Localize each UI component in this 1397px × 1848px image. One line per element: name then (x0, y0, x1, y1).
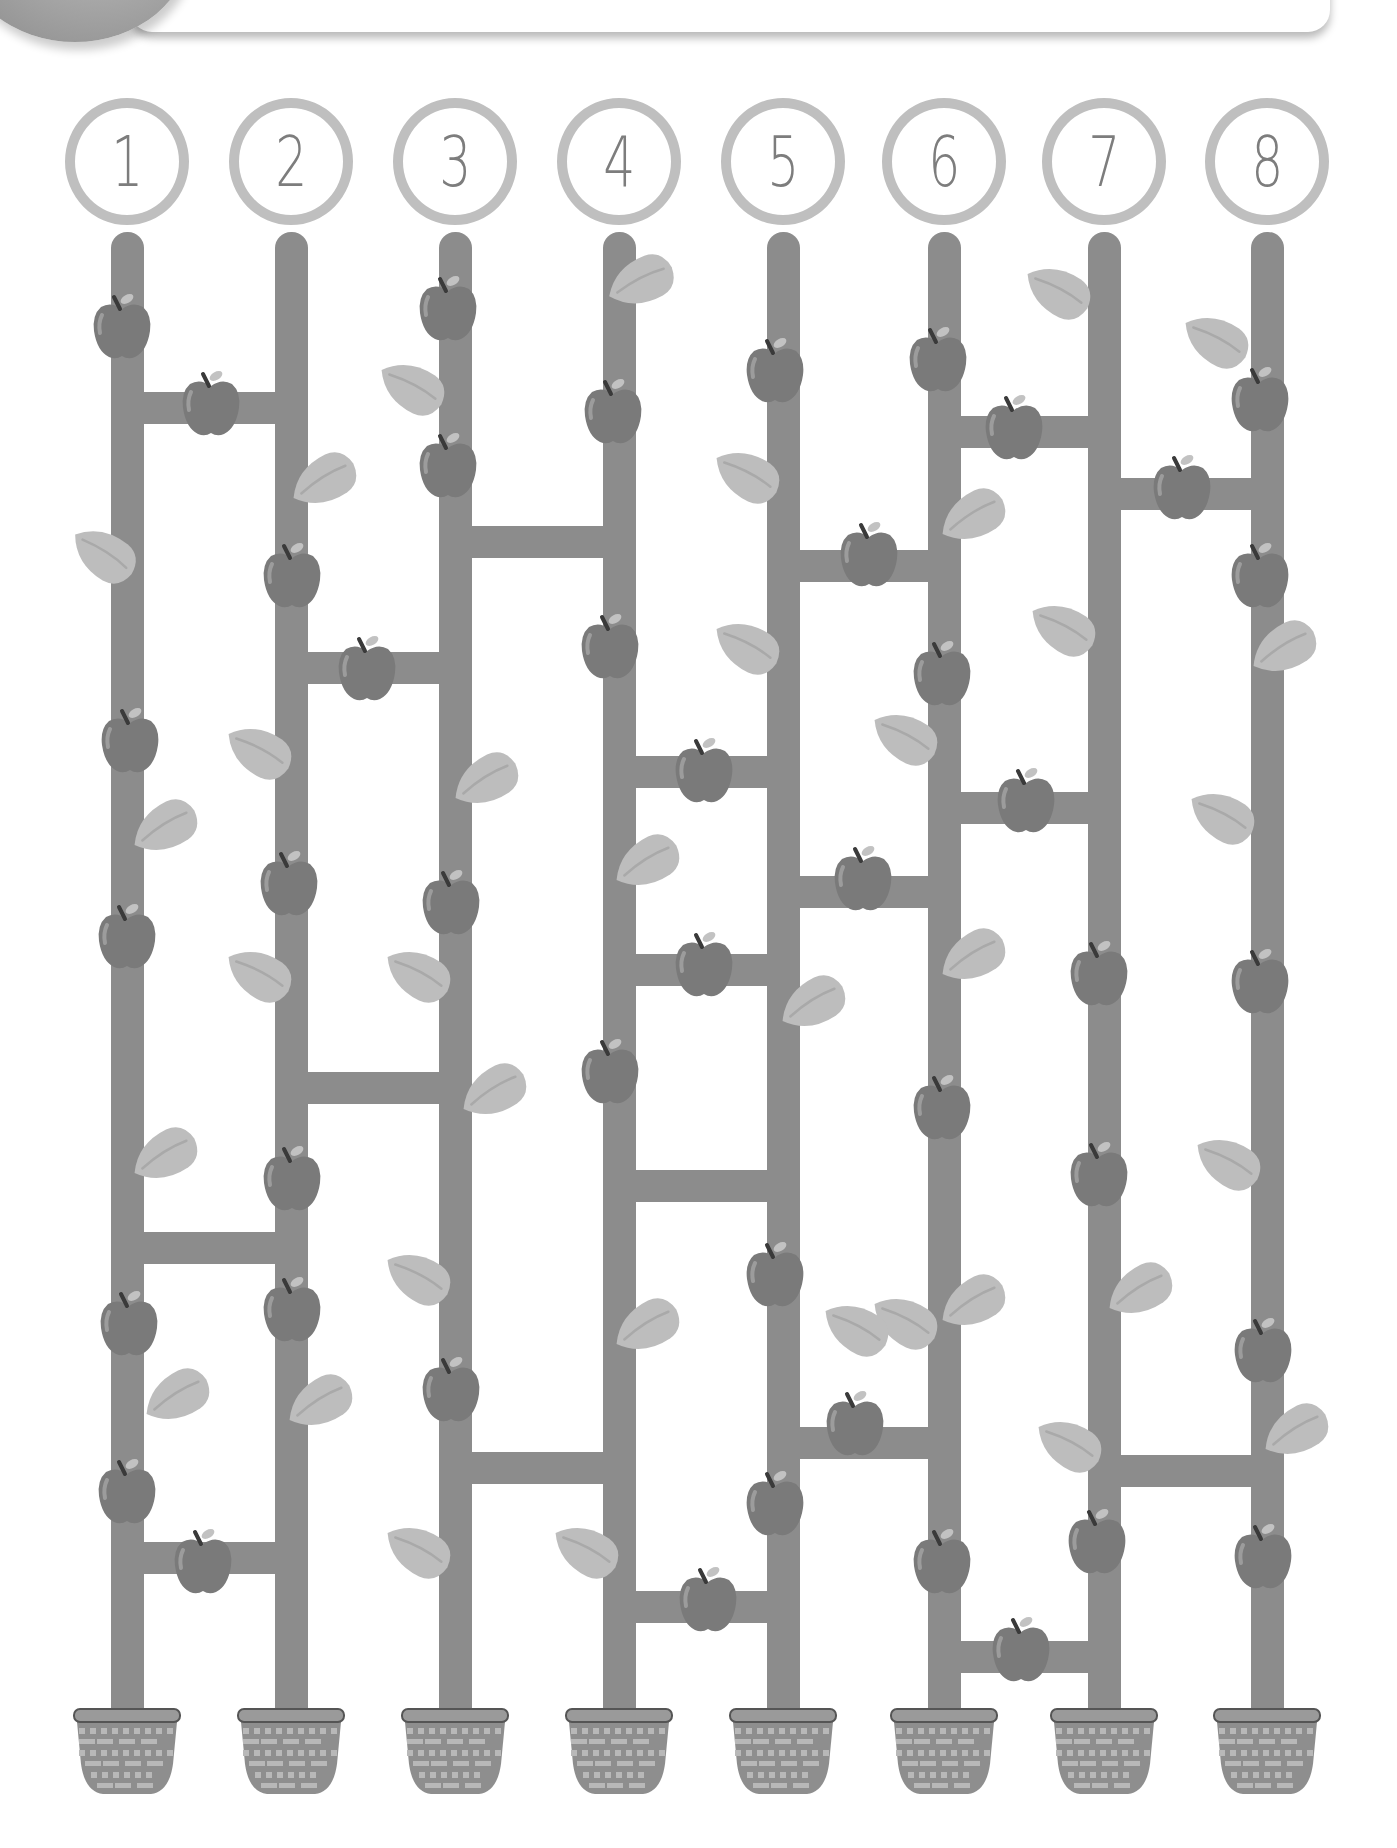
basket-icon[interactable] (1213, 1706, 1321, 1798)
ladder-rung (291, 1072, 455, 1104)
apple-icon[interactable] (1229, 946, 1291, 1016)
apple-icon[interactable] (96, 1456, 158, 1526)
apple-icon[interactable] (911, 1526, 973, 1596)
apple-icon[interactable] (99, 705, 161, 775)
ladder-rung (619, 1170, 783, 1202)
basket-icon[interactable] (401, 1706, 509, 1798)
apple-icon[interactable] (1229, 364, 1291, 434)
apple-icon[interactable] (1232, 1315, 1294, 1385)
apple-icon[interactable] (420, 867, 482, 937)
basket-icon[interactable] (237, 1706, 345, 1798)
start-number-7[interactable]: 7 (1042, 98, 1166, 225)
apple-icon[interactable] (180, 368, 242, 438)
start-number-label: 8 (1251, 127, 1283, 197)
start-number-label: 1 (111, 127, 143, 197)
apple-icon[interactable] (677, 1564, 739, 1634)
start-number-5[interactable]: 5 (721, 98, 845, 225)
apple-icon[interactable] (673, 735, 735, 805)
start-number-4[interactable]: 4 (557, 98, 681, 225)
apple-icon[interactable] (673, 929, 735, 999)
ladder-rung (1104, 1455, 1267, 1487)
apple-icon[interactable] (261, 540, 323, 610)
apple-icon[interactable] (824, 1388, 886, 1458)
apple-icon[interactable] (1229, 540, 1291, 610)
start-number-1[interactable]: 1 (65, 98, 189, 225)
basket-icon[interactable] (890, 1706, 998, 1798)
start-number-label: 4 (603, 127, 635, 197)
apple-icon[interactable] (417, 273, 479, 343)
basket-icon[interactable] (73, 1706, 181, 1798)
apple-icon[interactable] (744, 335, 806, 405)
apple-icon[interactable] (995, 765, 1057, 835)
apple-icon[interactable] (1151, 452, 1213, 522)
start-number-label: 2 (275, 127, 307, 197)
basket-icon[interactable] (729, 1706, 837, 1798)
apple-icon[interactable] (261, 1143, 323, 1213)
apple-icon[interactable] (744, 1239, 806, 1309)
apple-icon[interactable] (98, 1288, 160, 1358)
ladder-rung (455, 526, 619, 558)
apple-icon[interactable] (96, 901, 158, 971)
start-number-8[interactable]: 8 (1205, 98, 1329, 225)
maze-board: 1 2 3 4 5 6 7 8 (0, 0, 1397, 1848)
apple-icon[interactable] (911, 638, 973, 708)
apple-icon[interactable] (911, 1072, 973, 1142)
start-number-label: 7 (1088, 127, 1120, 197)
apple-icon[interactable] (417, 430, 479, 500)
basket-icon[interactable] (1050, 1706, 1158, 1798)
start-number-3[interactable]: 3 (393, 98, 517, 225)
leaf-icon (131, 1356, 221, 1438)
apple-icon[interactable] (579, 1036, 641, 1106)
basket-icon[interactable] (565, 1706, 673, 1798)
apple-icon[interactable] (838, 519, 900, 589)
ladder-rung (127, 1232, 291, 1264)
apple-icon[interactable] (579, 611, 641, 681)
apple-icon[interactable] (420, 1354, 482, 1424)
apple-icon[interactable] (1068, 938, 1130, 1008)
start-number-2[interactable]: 2 (229, 98, 353, 225)
apple-icon[interactable] (582, 376, 644, 446)
apple-icon[interactable] (336, 633, 398, 703)
apple-icon[interactable] (1066, 1506, 1128, 1576)
apple-icon[interactable] (1068, 1139, 1130, 1209)
start-number-label: 6 (928, 127, 960, 197)
start-number-label: 5 (767, 127, 799, 197)
apple-icon[interactable] (1232, 1521, 1294, 1591)
apple-icon[interactable] (258, 848, 320, 918)
apple-icon[interactable] (261, 1274, 323, 1344)
apple-icon[interactable] (832, 843, 894, 913)
start-number-label: 3 (439, 127, 471, 197)
apple-icon[interactable] (91, 291, 153, 361)
apple-icon[interactable] (983, 392, 1045, 462)
ladder-rung (455, 1452, 619, 1484)
apple-icon[interactable] (990, 1614, 1052, 1684)
apple-icon[interactable] (744, 1468, 806, 1538)
path-pole-4 (603, 232, 636, 1712)
apple-icon[interactable] (172, 1526, 234, 1596)
start-number-6[interactable]: 6 (882, 98, 1006, 225)
apple-icon[interactable] (907, 324, 969, 394)
